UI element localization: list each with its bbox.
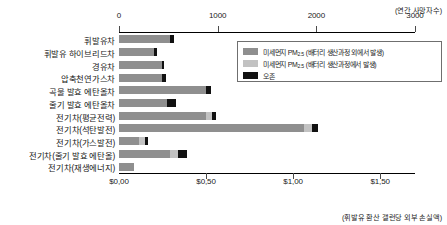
category-label-8: 전기차(가스발전) xyxy=(56,136,115,148)
bar-segment-ozone xyxy=(162,61,164,69)
bottom-tick-label-1: $0,50 xyxy=(196,177,216,186)
bar-segment-main xyxy=(119,137,139,145)
category-label-5: 줄기 발효 에탄올차 xyxy=(49,98,115,110)
legend-item-0[interactable]: 미세먼지 PM2.5 (배터리 생산과정 외에서 발생) xyxy=(243,46,436,57)
bottom-tick-label-3: $1,50 xyxy=(370,177,390,186)
bar-segment-ozone xyxy=(212,112,216,120)
emissions-mortality-bar-chart: (연간 사망자수) (휘발유 환산 갤런당 외부 손실액) 0100020003… xyxy=(0,0,447,225)
legend-item-2[interactable]: 오존 xyxy=(243,70,436,81)
bar-segment-main xyxy=(119,61,162,69)
legend-item-1[interactable]: 미세먼지 PM2.5 (배터리 생산과정에서 발생) xyxy=(243,58,436,69)
bar-segment-main xyxy=(119,99,167,107)
category-label-6: 전기차(평균전력) xyxy=(56,111,115,123)
legend-label-1: 미세먼지 PM2.5 (배터리 생산과정에서 발생) xyxy=(263,59,376,69)
top-tick-1 xyxy=(218,26,219,32)
category-label-2: 경유차 xyxy=(92,60,115,72)
bar-row xyxy=(119,86,415,94)
top-tick-label-0: 0 xyxy=(117,11,121,20)
bar-segment-main xyxy=(119,48,154,56)
legend-label-2: 오존 xyxy=(263,71,275,81)
bar-segment-ozone xyxy=(206,86,211,94)
category-label-1: 휘발유 하이브리드차 xyxy=(44,47,115,59)
bottom-axis-unit-note: (휘발유 환산 갤런당 외부 손실액) xyxy=(342,212,442,222)
bar-segment-main xyxy=(119,86,206,94)
top-tick-0 xyxy=(119,26,120,32)
bar-row xyxy=(119,163,415,171)
top-axis-line xyxy=(119,32,415,33)
bar-segment-main xyxy=(119,150,170,158)
top-tick-label-2: 2000 xyxy=(308,11,325,20)
top-tick-3 xyxy=(415,26,416,32)
bar-segment-main xyxy=(119,35,170,43)
category-label-7: 전기차(석탄발전) xyxy=(56,123,115,135)
bar-row xyxy=(119,124,415,132)
bar-row xyxy=(119,99,415,107)
bar-segment-main xyxy=(119,112,206,120)
category-label-3: 압축천연가스차 xyxy=(61,72,115,84)
bar-row xyxy=(119,150,415,158)
bar-segment-main xyxy=(119,74,162,82)
legend-swatch-pm25-non-battery xyxy=(243,48,258,55)
top-tick-2 xyxy=(316,26,317,32)
bar-segment-ozone xyxy=(162,74,166,82)
top-tick-label-1: 1000 xyxy=(209,11,226,20)
category-label-9: 전기차(줄기 발효 에탄올) xyxy=(29,149,115,161)
bottom-tick-label-0: $0,00 xyxy=(109,177,129,186)
legend-label-0: 미세먼지 PM2.5 (배터리 생산과정 외에서 발생) xyxy=(263,47,384,57)
legend-swatch-pm25-battery xyxy=(243,60,258,67)
bar-segment-ozone xyxy=(154,48,158,56)
bar-segment-ozone xyxy=(178,150,187,158)
category-label-4: 곡물 발효 에탄올차 xyxy=(49,85,115,97)
category-label-0: 휘발유차 xyxy=(84,34,115,46)
bar-segment-battery xyxy=(170,150,178,158)
bar-segment-main xyxy=(119,124,304,132)
bar-segment-ozone xyxy=(167,99,176,107)
legend-swatch-ozone xyxy=(243,72,258,79)
bar-segment-ozone xyxy=(170,35,174,43)
bar-segment-battery xyxy=(304,124,312,132)
bar-segment-ozone xyxy=(312,124,318,132)
bar-row xyxy=(119,112,415,120)
bottom-tick-label-2: $1,00 xyxy=(283,177,303,186)
category-label-10: 전기차(재생에너지) xyxy=(48,161,115,173)
bar-segment-ozone xyxy=(145,137,148,145)
bar-segment-main xyxy=(119,163,134,171)
bottom-axis-line xyxy=(119,173,415,174)
chart-legend: 미세먼지 PM2.5 (배터리 생산과정 외에서 발생)미세먼지 PM2.5 (… xyxy=(237,41,442,82)
top-tick-label-3: 3000 xyxy=(406,11,423,20)
bar-row xyxy=(119,137,415,145)
